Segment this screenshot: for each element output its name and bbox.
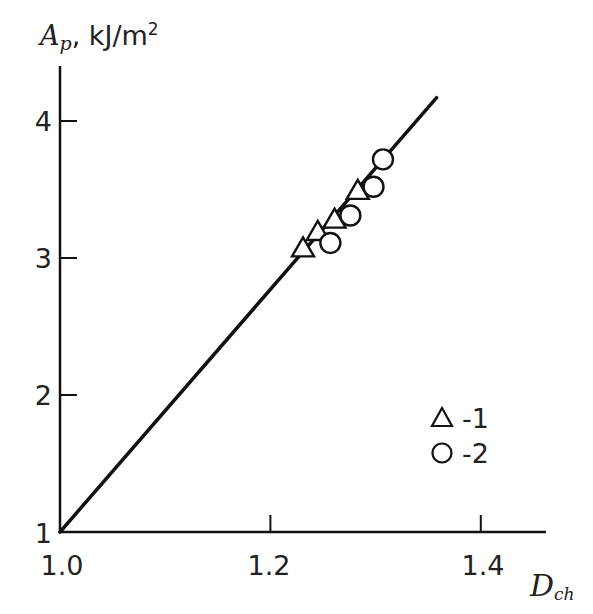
chart-canvas: 4 3 2 1 1.0 1.2 1.4 Ap, kJ/m2 Dch -1 -2 — [0, 0, 593, 614]
y-tick-label-1: 1 — [35, 518, 52, 549]
legend-triangle-icon — [432, 408, 452, 426]
x-tick-label-1.2: 1.2 — [248, 550, 291, 581]
x-tick-label-1.0: 1.0 — [41, 550, 84, 581]
legend-circle-icon — [433, 444, 452, 463]
y-ticks — [60, 121, 77, 395]
circle-marker-icon — [340, 206, 360, 226]
y-tick-label-4: 4 — [35, 106, 52, 137]
x-tick-label-1.4: 1.4 — [462, 550, 505, 581]
y-tick-label-2: 2 — [35, 380, 52, 411]
circle-marker-icon — [363, 177, 383, 197]
legend-label-2: -2 — [462, 438, 489, 469]
data-markers — [292, 149, 393, 256]
y-axis-title: Ap, kJ/m2 — [37, 19, 159, 54]
circle-marker-icon — [320, 233, 340, 253]
x-ticks — [270, 515, 480, 532]
y-tick-label-3: 3 — [35, 243, 52, 274]
x-axis-title: Dch — [529, 568, 575, 604]
circle-marker-icon — [373, 149, 393, 169]
legend-label-1: -1 — [462, 403, 489, 434]
legend: -1 -2 — [432, 403, 489, 469]
